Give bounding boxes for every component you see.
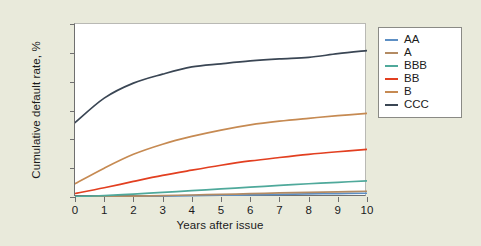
- legend-label: CCC: [404, 99, 429, 111]
- x-tick-label: 8: [298, 205, 320, 217]
- legend-swatch-ccc: [385, 104, 398, 106]
- x-tick-label: 1: [93, 205, 115, 217]
- y-tick: [70, 168, 75, 169]
- plot-area: 0102030405060 012345678910: [74, 23, 366, 196]
- x-tick-label: 4: [181, 205, 203, 217]
- legend-label: A: [404, 47, 412, 59]
- x-tick-label: 10: [356, 205, 378, 217]
- series-line-b: [75, 113, 367, 183]
- x-tick: [309, 197, 310, 202]
- x-tick: [221, 197, 222, 202]
- x-tick: [367, 197, 368, 202]
- legend-item-b[interactable]: B: [385, 85, 455, 98]
- chart-legend: AAABBBBBBCCC: [378, 27, 462, 118]
- legend-label: B: [404, 86, 412, 98]
- legend-item-a[interactable]: A: [385, 46, 455, 59]
- x-tick: [163, 197, 164, 202]
- legend-item-aa[interactable]: AA: [385, 33, 455, 46]
- legend-label: BBB: [404, 60, 427, 72]
- x-tick: [250, 197, 251, 202]
- legend-item-ccc[interactable]: CCC: [385, 98, 455, 111]
- legend-label: BB: [404, 73, 419, 85]
- x-tick-label: 9: [327, 205, 349, 217]
- legend-label: AA: [404, 34, 419, 46]
- chart-figure: Cumulative default rate, % Years after i…: [0, 0, 481, 246]
- x-axis-label: Years after issue: [74, 219, 366, 231]
- x-tick-label: 6: [239, 205, 261, 217]
- y-tick: [70, 111, 75, 112]
- legend-swatch-aa: [385, 39, 398, 41]
- legend-swatch-bb: [385, 78, 398, 80]
- x-tick-label: 7: [268, 205, 290, 217]
- x-tick-label: 3: [152, 205, 174, 217]
- legend-swatch-b: [385, 91, 398, 93]
- x-tick: [338, 197, 339, 202]
- y-tick: [70, 82, 75, 83]
- y-axis-label: Cumulative default rate, %: [30, 10, 42, 210]
- legend-item-bb[interactable]: BB: [385, 72, 455, 85]
- series-line-bb: [75, 149, 367, 193]
- x-tick: [133, 197, 134, 202]
- legend-swatch-bbb: [385, 65, 398, 67]
- y-tick: [70, 24, 75, 25]
- legend-item-bbb[interactable]: BBB: [385, 59, 455, 72]
- x-tick-label: 2: [122, 205, 144, 217]
- x-tick: [279, 197, 280, 202]
- x-tick-label: 5: [210, 205, 232, 217]
- y-tick: [70, 139, 75, 140]
- x-tick: [75, 197, 76, 202]
- x-tick: [104, 197, 105, 202]
- y-tick: [70, 53, 75, 54]
- series-lines: [75, 24, 367, 197]
- x-tick: [192, 197, 193, 202]
- x-tick-label: 0: [64, 205, 86, 217]
- series-line-ccc: [75, 51, 367, 123]
- legend-swatch-a: [385, 52, 398, 54]
